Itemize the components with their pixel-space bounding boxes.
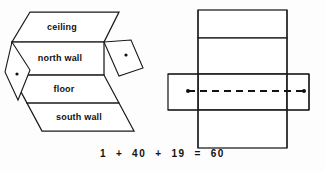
west-wall-dot-icon	[15, 72, 18, 75]
label-north-wall: north wall	[38, 53, 83, 63]
left-diagram-unfolded-room: ceiling north wall floor south wall	[5, 12, 143, 131]
face-east-wall	[104, 40, 143, 76]
label-south-wall: south wall	[56, 112, 102, 122]
face-bottom-panel	[198, 110, 287, 148]
route-end-dot-icon	[302, 89, 306, 93]
label-floor: floor	[54, 84, 75, 94]
figure-root: ceiling north wall floor south wall	[0, 0, 325, 171]
figures-svg: ceiling north wall floor south wall	[0, 0, 325, 171]
face-top-panel	[198, 10, 287, 38]
east-wall-dot-icon	[124, 53, 127, 56]
route-start-dot-icon	[186, 89, 190, 93]
face-upper-middle-panel	[198, 38, 287, 74]
label-ceiling: ceiling	[47, 22, 77, 32]
equation-caption: 1 + 40 + 19 = 60	[0, 148, 325, 159]
right-diagram-box-net	[168, 10, 309, 148]
